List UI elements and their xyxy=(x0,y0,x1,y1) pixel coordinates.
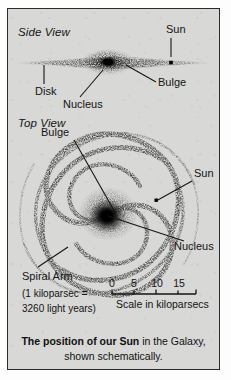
scale-caption: Scale in kiloparsecs xyxy=(116,299,209,310)
side-view-label-sun: Sun xyxy=(166,24,186,36)
side-view-label-bulge: Bulge xyxy=(158,77,186,89)
kiloparsec-note-line2: 3260 light years) xyxy=(22,302,96,317)
kiloparsec-note: (1 kiloparsec = 3260 light years) xyxy=(22,287,96,316)
side-view-label-nucleus: Nucleus xyxy=(63,99,103,111)
scale-tick-5: 5 xyxy=(131,277,137,289)
scale-tick-15: 15 xyxy=(173,277,185,289)
figure-root: Side View Sun Disk Nucleus Bulge Top Vie… xyxy=(0,0,231,380)
top-view-label-nucleus: Nucleus xyxy=(174,241,214,253)
figure-caption-bold: The position of our Sun xyxy=(21,335,139,347)
scale-tick-10: 10 xyxy=(151,277,163,289)
figure-caption: The position of our Sun in the Galaxy, s… xyxy=(14,334,213,364)
figure-panel: Side View Sun Disk Nucleus Bulge Top Vie… xyxy=(7,8,220,370)
scale-tick-0: 0 xyxy=(109,277,115,289)
side-view-label-disk: Disk xyxy=(35,86,56,98)
top-view-label-bulge: Bulge xyxy=(41,127,69,139)
sun-marker-side xyxy=(169,61,173,65)
leader-nucleus-side xyxy=(80,70,103,97)
scale-tick-labels: 0 5 10 15 xyxy=(8,277,220,291)
top-view-label-sun: Sun xyxy=(194,168,214,180)
side-view-title: Side View xyxy=(18,26,70,38)
leader-sun-top xyxy=(156,181,192,201)
